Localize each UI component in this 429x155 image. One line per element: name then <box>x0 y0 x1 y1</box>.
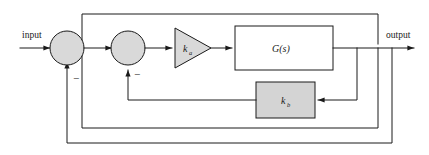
amplifier-ka-subscript: a <box>189 49 192 56</box>
block-diagram-canvas: input output k a G(s) k b − − <box>0 0 429 155</box>
summing-junction-2 <box>111 31 145 65</box>
summing-junction-1 <box>50 31 84 65</box>
amplifier-ka-body <box>175 28 211 68</box>
summing-junction-2-sign: − <box>134 68 140 80</box>
outer-feedback-loop-path <box>67 48 392 143</box>
feedback-gain-kb-symbol: k <box>281 95 286 106</box>
feedback-gain-kb-body <box>256 82 315 118</box>
wire-kb-to-sum2 <box>128 70 256 100</box>
summing-junction-1-sign: − <box>73 72 79 84</box>
output-label: output <box>386 30 411 40</box>
plant-gs-label: G(s) <box>272 43 290 55</box>
input-label: input <box>22 30 42 40</box>
amplifier-ka-symbol: k <box>183 43 188 54</box>
block-diagram-svg: input output k a G(s) k b − − <box>0 0 429 155</box>
